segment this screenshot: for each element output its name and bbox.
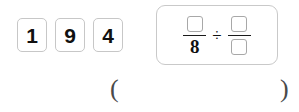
answer-close-paren: ) — [280, 76, 289, 102]
digit-tile-tray: 1 9 4 — [17, 18, 123, 52]
right-fraction — [228, 14, 251, 57]
left-fraction: 8 — [183, 14, 206, 57]
digit-tile-1[interactable]: 1 — [17, 18, 47, 52]
left-fraction-denominator: 8 — [190, 37, 200, 57]
right-numerator-blank-box[interactable] — [231, 16, 247, 32]
digit-tile-4[interactable]: 4 — [93, 18, 123, 52]
right-fraction-denominator — [231, 37, 247, 57]
answer-input[interactable] — [122, 78, 278, 100]
left-fraction-numerator — [187, 14, 203, 34]
left-numerator-blank-box[interactable] — [187, 16, 203, 32]
expression-panel: 8 ÷ — [156, 5, 278, 65]
expression-row: 8 ÷ — [183, 14, 250, 57]
right-fraction-bar — [228, 35, 251, 36]
division-operator: ÷ — [211, 27, 222, 44]
right-denominator-blank-box[interactable] — [231, 39, 247, 55]
digit-tile-9[interactable]: 9 — [55, 18, 85, 52]
answer-open-paren: ( — [110, 76, 119, 102]
right-fraction-numerator — [231, 14, 247, 34]
